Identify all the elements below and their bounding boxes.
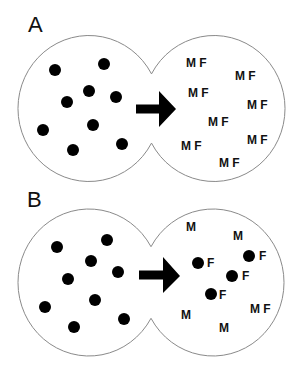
dot (192, 257, 204, 269)
dot (116, 138, 128, 150)
mf-label: M F (250, 302, 271, 316)
dot (110, 91, 122, 103)
dot (83, 85, 95, 97)
dot (85, 255, 97, 267)
mf-label: M F (188, 86, 209, 100)
dot (61, 96, 73, 108)
m-label: M (186, 220, 196, 234)
dot (68, 321, 80, 333)
m-label: M (219, 321, 229, 335)
mf-label: M F (219, 156, 240, 170)
panel-label-b: B (27, 187, 42, 212)
panel-a: A M F M F M F M F M F M F M F M F (18, 12, 285, 182)
dot (243, 250, 255, 262)
dot (39, 301, 51, 313)
panel-b: B M M F F (18, 187, 284, 356)
dot (205, 288, 217, 300)
dot (112, 266, 124, 278)
m-label: M (233, 229, 243, 243)
dot (49, 64, 61, 76)
dot (98, 58, 110, 70)
f-label: F (259, 249, 266, 263)
dot (87, 119, 99, 131)
dot (62, 273, 74, 285)
panel-label-a: A (28, 12, 43, 37)
mf-label: M F (181, 139, 202, 153)
mf-label: M F (208, 115, 229, 129)
f-label: F (219, 288, 226, 302)
diagram-canvas: A M F M F M F M F M F M F M F M F B (0, 0, 301, 368)
dot (101, 234, 113, 246)
dot (37, 124, 49, 136)
dot (89, 294, 101, 306)
mf-label: M F (247, 98, 268, 112)
f-label: F (207, 256, 214, 270)
dot (67, 144, 79, 156)
dot (226, 270, 238, 282)
mf-label: M F (186, 56, 207, 70)
dot (118, 313, 130, 325)
f-label: F (242, 269, 249, 283)
mf-label: M F (247, 133, 268, 147)
m-label: M (181, 308, 191, 322)
mf-label: M F (235, 69, 256, 83)
dot (51, 241, 63, 253)
